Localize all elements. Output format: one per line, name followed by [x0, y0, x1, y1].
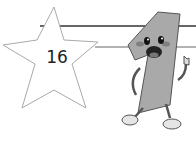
star-number-label: 16	[40, 47, 74, 67]
illustration	[0, 0, 196, 143]
number-one-mascot	[122, 12, 189, 129]
